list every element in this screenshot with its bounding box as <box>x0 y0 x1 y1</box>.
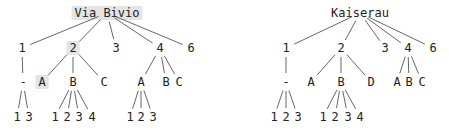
tree-edge <box>345 90 355 109</box>
tree-node-label: 3 <box>294 110 301 124</box>
tree-edge <box>343 91 346 108</box>
tree-node-label: C <box>175 75 182 89</box>
tree-edge <box>327 90 337 109</box>
tree-node-label: B <box>69 75 76 89</box>
tree-node-label: A <box>393 75 401 89</box>
tree-node-label: B <box>162 75 169 89</box>
tree-edge <box>345 21 355 40</box>
tree-edge <box>25 91 28 108</box>
tree-edge <box>400 57 405 74</box>
tree-edge <box>144 91 150 109</box>
edge-layer <box>19 16 425 109</box>
tree-node-label: 1 <box>126 110 133 124</box>
tree-node-label: 2 <box>331 110 338 124</box>
tree-node-label: 1 <box>18 41 25 55</box>
tree-node-label: 1 <box>282 41 289 55</box>
tree-edge <box>347 55 365 76</box>
tree-edge <box>145 56 155 74</box>
tree-node-label: 3 <box>149 110 156 124</box>
tree-edge <box>162 57 165 73</box>
tree-node-label: 3 <box>344 110 351 124</box>
tree-edge <box>75 91 78 108</box>
tree-node-label: B <box>337 75 344 89</box>
tree-node-label: - <box>19 75 26 89</box>
tree-edge <box>317 55 335 76</box>
tree-node-label: 2 <box>63 110 70 124</box>
tree-node-label: 2 <box>337 41 344 55</box>
tree-diagram-canvas: Via Bivio12346-ABCABC131234123Kaiserau12… <box>0 0 449 131</box>
tree-node-label: 2 <box>282 110 289 124</box>
tree-node-label: 1 <box>13 110 20 124</box>
tree-edge <box>277 91 283 109</box>
tree-node-label: 1 <box>319 110 326 124</box>
tree-edge <box>69 91 72 108</box>
tree-edge <box>289 91 295 109</box>
tree-edge <box>59 90 69 109</box>
tree-node-label: 4 <box>156 41 163 55</box>
tree-root-label: Kaiserau <box>331 6 389 20</box>
tree-node-label: 3 <box>75 110 82 124</box>
tree-node-label: A <box>38 75 46 89</box>
tree-node-label: 4 <box>88 110 95 124</box>
tree-node-label: 3 <box>25 110 32 124</box>
tree-edge <box>115 18 153 43</box>
tree-node-label: C <box>100 75 107 89</box>
tree-edge <box>77 90 87 109</box>
tree-node-label: 2 <box>137 110 144 124</box>
tree-edge <box>79 55 98 76</box>
tree-node-label: - <box>282 75 289 89</box>
tree-node-label: A <box>307 75 315 89</box>
tree-node-label: 3 <box>112 41 119 55</box>
tree-edge <box>19 91 22 108</box>
tree-edge <box>337 91 340 108</box>
tree-node-label: 6 <box>429 41 436 55</box>
tree-node-label: 6 <box>187 41 194 55</box>
tree-node-label: 3 <box>381 41 388 55</box>
tree-node-label: A <box>137 75 145 89</box>
tree-root-label: Via Bivio <box>74 6 139 20</box>
tree-node-label: 2 <box>69 41 76 55</box>
tree-node-label: D <box>367 75 374 89</box>
tree-edge <box>411 56 418 73</box>
tree-node-label: 4 <box>356 110 363 124</box>
tree-node-label: 1 <box>51 110 58 124</box>
tree-edge <box>164 56 174 74</box>
tree-edge <box>365 20 380 40</box>
tree-node-label: C <box>418 75 425 89</box>
tree-node-label: B <box>405 75 412 89</box>
tree-node-label: 4 <box>404 41 411 55</box>
tree-edge <box>48 55 67 76</box>
tree-edge <box>133 91 139 109</box>
tree-node-label: 1 <box>270 110 277 124</box>
tree-edge <box>30 16 98 44</box>
tree-edge <box>109 22 114 40</box>
